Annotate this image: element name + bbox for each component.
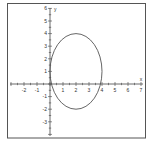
x-tick-label: -1 — [35, 87, 40, 93]
y-axis-label: y — [54, 6, 57, 12]
x-tick-label: 4 — [101, 87, 104, 93]
x-tick-label: 2 — [75, 87, 78, 93]
x-tick-label: -2 — [22, 87, 27, 93]
ellipse-curve — [50, 34, 102, 110]
y-tick-label: 6 — [44, 5, 47, 11]
y-tick-label: -3 — [43, 119, 48, 125]
x-tick-label: 7 — [140, 87, 143, 93]
x-tick-label: 5 — [114, 87, 117, 93]
y-tick-label: 5 — [44, 18, 47, 24]
y-tick-label: 1 — [44, 68, 47, 74]
y-tick-label: -1 — [43, 93, 48, 99]
y-tick-label: 2 — [44, 56, 47, 62]
x-tick-label: 6 — [127, 87, 130, 93]
x-tick-label: 3 — [88, 87, 91, 93]
plot-frame — [8, 4, 146, 139]
chart: -2-11234567-3-2-1123456xy — [0, 0, 152, 145]
x-tick-label: 1 — [62, 87, 65, 93]
x-axis-label: x — [140, 76, 143, 82]
y-tick-label: 4 — [44, 30, 47, 36]
y-tick-label: -2 — [43, 106, 48, 112]
y-tick-label: 3 — [44, 43, 47, 49]
